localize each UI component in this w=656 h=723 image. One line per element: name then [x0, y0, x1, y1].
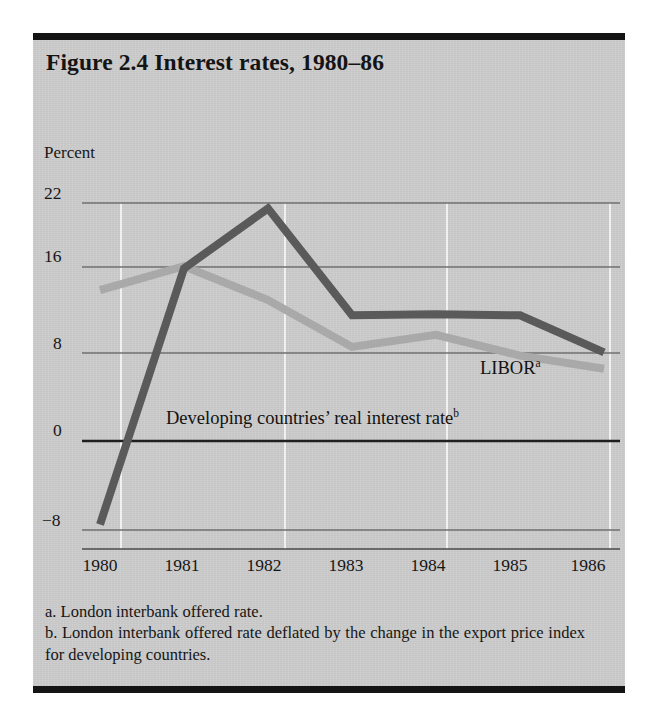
footnote-marker-a: a	[536, 357, 541, 369]
x-tick-label-1980: 1980	[63, 555, 137, 576]
series-annotation-developing-countries-text: Developing countries’ real interest rate	[166, 408, 453, 428]
x-tick-label-1981: 1981	[145, 555, 219, 576]
footnote-b: b. London interbank offered rate deflate…	[45, 622, 585, 665]
footnote-marker-b: b	[453, 407, 459, 419]
x-tick-label-1986: 1986	[551, 555, 625, 576]
series-annotation-developing-countries: Developing countries’ real interest rate…	[166, 408, 459, 429]
x-tick-label-1983: 1983	[309, 555, 383, 576]
footnote-a: a. London interbank offered rate.	[45, 601, 585, 622]
figure-container: Figure 2.4 Interest rates, 1980–86 Perce…	[0, 0, 656, 723]
series-annotation-libor-text: LIBOR	[480, 358, 536, 378]
x-tick-label-1984: 1984	[391, 555, 465, 576]
x-tick-label-1982: 1982	[227, 555, 301, 576]
figure-footnotes: a. London interbank offered rate. b. Lon…	[45, 601, 585, 665]
x-tick-label-1985: 1985	[473, 555, 547, 576]
series-annotation-libor: LIBORa	[480, 358, 541, 379]
